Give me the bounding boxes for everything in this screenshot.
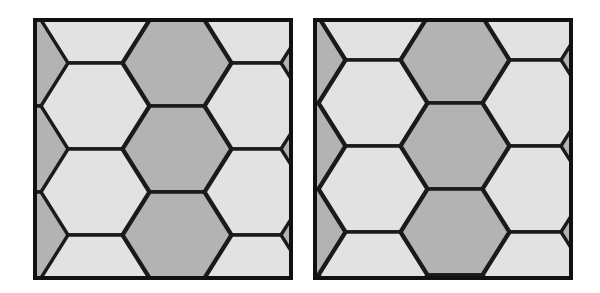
- panel-right-svg: [310, 15, 576, 283]
- panel-left: [30, 15, 296, 283]
- tiling-tiles: [310, 15, 576, 283]
- panel-left-svg: [30, 15, 296, 283]
- panel-right: [310, 15, 576, 283]
- tiling-figure: [0, 0, 600, 293]
- hex-tile: [310, 15, 345, 17]
- hex-tile: [561, 15, 576, 17]
- hex-tile: [401, 15, 509, 17]
- tiling-tiles: [30, 15, 296, 283]
